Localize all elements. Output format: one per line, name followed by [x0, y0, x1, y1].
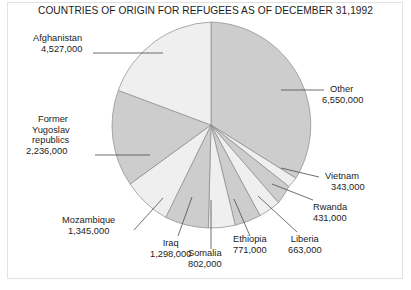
label-ethiopia: Ethiopia 771,000 — [233, 234, 267, 255]
label-vietnam-value: 343,000 — [331, 182, 365, 193]
label-ethiopia-name: Ethiopia — [233, 234, 267, 244]
label-ethiopia-value: 771,000 — [233, 245, 267, 256]
label-mozambique-value: 1,345,000 — [62, 226, 115, 237]
label-former-yugoslav-value: 2,236,000 — [26, 146, 70, 157]
label-other-name: Other — [330, 84, 353, 94]
label-iraq: Iraq 1,298,000 — [150, 238, 191, 259]
label-afghanistan: Afghanistan 4,527,000 — [33, 33, 82, 54]
label-liberia: Liberia 663,000 — [288, 234, 322, 255]
label-mozambique-name: Mozambique — [62, 215, 115, 225]
label-former-yugoslav-republics: Former Yugoslav republics 2,236,000 — [26, 114, 70, 156]
label-liberia-value: 663,000 — [288, 245, 322, 256]
label-iraq-name: Iraq — [163, 238, 179, 248]
label-iraq-value: 1,298,000 — [150, 249, 191, 260]
label-rwanda-value: 431,000 — [313, 213, 347, 224]
label-other-value: 6,550,000 — [322, 95, 363, 106]
label-former-yugoslav-line3: republics — [32, 135, 70, 146]
label-somalia-value: 802,000 — [188, 259, 222, 270]
label-afghanistan-name: Afghanistan — [33, 33, 82, 43]
label-former-yugoslav-line1: Former — [38, 114, 70, 125]
label-somalia: Somalia 802,000 — [188, 248, 222, 269]
refugee-origins-pie-figure: COUNTRIES OF ORIGIN FOR REFUGEES AS OF D… — [0, 0, 411, 290]
label-afghanistan-value: 4,527,000 — [41, 44, 82, 55]
label-somalia-name: Somalia — [188, 248, 222, 258]
label-rwanda-name: Rwanda — [313, 202, 347, 212]
label-former-yugoslav-line2: Yugoslav — [32, 125, 70, 136]
label-rwanda: Rwanda 431,000 — [313, 202, 347, 223]
label-liberia-name: Liberia — [291, 234, 319, 244]
label-other: Other 6,550,000 — [330, 84, 363, 105]
label-vietnam-name: Vietnam — [325, 171, 359, 181]
label-vietnam: Vietnam 343,000 — [325, 171, 365, 192]
label-mozambique: Mozambique 1,345,000 — [62, 215, 115, 236]
